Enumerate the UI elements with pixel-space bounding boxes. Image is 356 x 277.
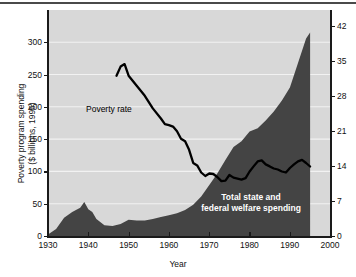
xtick-mark-1940 <box>88 232 89 236</box>
y-axis-title-left: Poverty program spending ($ billions, 19… <box>16 44 37 224</box>
xtick-mark-1970 <box>209 232 210 236</box>
ytick-mark-right-42 <box>331 26 335 27</box>
ytick-label-right-21: 21 <box>337 127 346 136</box>
ytick-mark-left-0 <box>44 236 48 237</box>
annotation-welfare-spending: Total state and federal welfare spending <box>186 192 316 214</box>
ytick-mark-right-28 <box>331 96 335 97</box>
xtick-mark-1930 <box>48 232 49 236</box>
chart-figure: 0 50 100 150 200 250 300 0 7 14 21 28 35… <box>0 0 356 277</box>
y-axis-title-left-line1: Poverty program spending <box>16 44 27 224</box>
ytick-label-right-28: 28 <box>337 92 346 101</box>
ytick-mark-right-0 <box>331 236 335 237</box>
xtick-label-1940: 1940 <box>79 241 98 250</box>
y-axis-title-left-line2: ($ billions, 1996) <box>26 44 37 224</box>
xtick-label-1930: 1930 <box>39 241 58 250</box>
ytick-mark-right-14 <box>331 166 335 167</box>
axis-spine-right <box>330 10 332 237</box>
ytick-label-right-7: 7 <box>337 197 342 206</box>
x-axis-title: Year <box>0 259 356 269</box>
xtick-label-1990: 1990 <box>280 241 299 250</box>
annotation-welfare-line1: Total state and <box>186 192 316 203</box>
ytick-label-left-0: 0 <box>8 232 42 241</box>
xtick-label-2000: 2000 <box>321 241 340 250</box>
xtick-label-1950: 1950 <box>119 241 138 250</box>
ytick-mark-left-150 <box>44 139 48 140</box>
ytick-mark-left-100 <box>44 171 48 172</box>
xtick-label-1960: 1960 <box>159 241 178 250</box>
xtick-mark-1950 <box>129 232 130 236</box>
xtick-label-1970: 1970 <box>200 241 219 250</box>
ytick-label-right-42: 42 <box>337 22 346 31</box>
ytick-mark-right-21 <box>331 131 335 132</box>
xtick-mark-1980 <box>249 232 250 236</box>
ytick-mark-left-200 <box>44 107 48 108</box>
ytick-mark-right-7 <box>331 201 335 202</box>
xtick-mark-2000 <box>330 232 331 236</box>
xtick-label-1980: 1980 <box>240 241 259 250</box>
annotation-welfare-line2: federal welfare spending <box>186 203 316 214</box>
ytick-label-right-14: 14 <box>337 162 346 171</box>
ytick-mark-left-250 <box>44 75 48 76</box>
top-divider-rule <box>0 2 356 4</box>
annotation-poverty-rate: Poverty rate <box>86 104 132 114</box>
xtick-mark-1960 <box>169 232 170 236</box>
ytick-label-right-0: 0 <box>337 232 342 241</box>
xtick-mark-1990 <box>290 232 291 236</box>
ytick-label-right-35: 35 <box>337 57 346 66</box>
ytick-mark-left-300 <box>44 42 48 43</box>
ytick-mark-left-50 <box>44 204 48 205</box>
axis-spine-bottom <box>47 236 332 238</box>
ytick-mark-right-35 <box>331 61 335 62</box>
